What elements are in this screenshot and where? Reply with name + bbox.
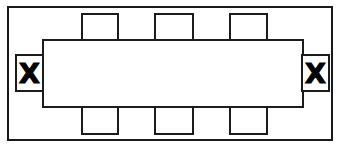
chair-bottom-2[interactable] (154, 107, 194, 135)
seating-diagram: X X (0, 0, 341, 148)
end-seat-right[interactable]: X (301, 54, 330, 92)
x-mark-icon: X (305, 60, 326, 87)
chair-bottom-1[interactable] (81, 107, 119, 135)
x-mark-icon: X (19, 60, 40, 87)
chair-top-3[interactable] (229, 13, 268, 40)
chair-top-2[interactable] (154, 13, 194, 40)
chair-bottom-3[interactable] (229, 107, 268, 135)
end-seat-left[interactable]: X (15, 54, 44, 92)
chair-top-1[interactable] (81, 13, 119, 40)
table-surface[interactable] (42, 39, 304, 108)
